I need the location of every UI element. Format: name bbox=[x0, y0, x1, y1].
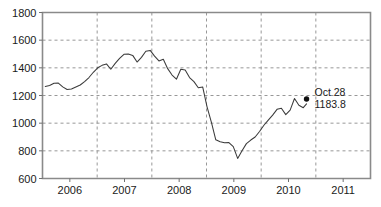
line-chart: 60080010001200140016001800 2006200720082… bbox=[0, 0, 381, 207]
y-axis-tick-label: 1800 bbox=[12, 7, 36, 19]
x-axis-tick-label: 2006 bbox=[58, 184, 82, 196]
y-axis-tick-label: 600 bbox=[18, 173, 36, 185]
annotation-value-label: 1183.8 bbox=[315, 98, 346, 110]
y-axis-tick-label: 1200 bbox=[12, 90, 36, 102]
y-axis-tick-label: 800 bbox=[18, 145, 36, 157]
y-axis-tick-label: 1400 bbox=[12, 62, 36, 74]
x-axis-tick-label: 2009 bbox=[222, 184, 246, 196]
annotation-date-label: Oct 28 bbox=[315, 86, 346, 98]
x-axis-tick-label: 2011 bbox=[331, 184, 355, 196]
x-axis-tick-label: 2008 bbox=[167, 184, 191, 196]
x-axis-tick-label: 2007 bbox=[112, 184, 136, 196]
chart-container: 60080010001200140016001800 2006200720082… bbox=[0, 0, 381, 207]
y-axis-tick-label: 1000 bbox=[12, 117, 36, 129]
latest-value-marker-dot bbox=[304, 96, 309, 101]
y-axis-tick-label: 1600 bbox=[12, 34, 36, 46]
x-axis-tick-label: 2010 bbox=[276, 184, 300, 196]
